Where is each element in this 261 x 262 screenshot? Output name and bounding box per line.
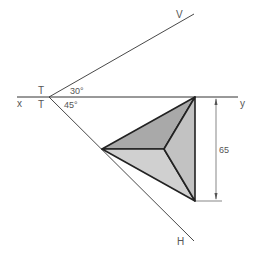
label-angle-45: 45° <box>64 100 78 110</box>
v-trace-line <box>49 14 194 97</box>
label-angle-30: 30° <box>70 86 84 96</box>
projection-diagram: x y T T 30° 45° V H 65 <box>0 0 261 262</box>
dimension-arrow-bottom <box>215 193 218 200</box>
label-v: V <box>176 9 183 20</box>
dimension-arrow-top <box>215 98 218 105</box>
label-x: x <box>17 98 22 109</box>
label-dimension-65: 65 <box>219 145 229 155</box>
label-t-bottom: T <box>38 99 44 110</box>
label-h: H <box>177 236 184 247</box>
label-t-top: T <box>38 85 44 96</box>
label-y: y <box>240 98 245 109</box>
